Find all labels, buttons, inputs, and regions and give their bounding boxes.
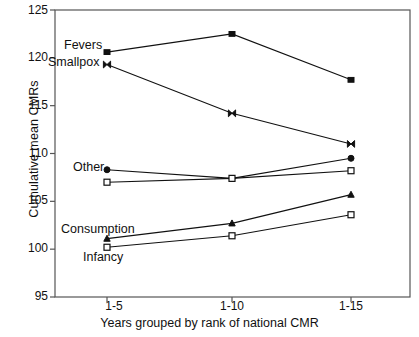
series-label-smallpox: Smallpox xyxy=(48,55,99,69)
y-tick-label-105: 105 xyxy=(18,193,48,207)
line-chart-plot xyxy=(0,0,419,337)
series-other-open xyxy=(104,168,354,185)
y-tick-label-115: 115 xyxy=(18,98,48,112)
series-label-fevers: Fevers xyxy=(64,38,102,52)
series-label-consumption: Consumption xyxy=(61,222,135,236)
y-tick-label-110: 110 xyxy=(18,146,48,160)
x-tick-label-1: 1-10 xyxy=(202,299,262,313)
x-axis-label: Years grouped by rank of national CMR xyxy=(0,316,419,330)
series-fevers xyxy=(104,32,354,83)
y-tick-label-95: 95 xyxy=(18,289,48,303)
series-infancy xyxy=(104,212,354,251)
series-label-other: Other xyxy=(73,160,104,174)
x-tick-label-0: 1-5 xyxy=(84,299,144,313)
series-smallpox xyxy=(103,61,354,147)
y-tick-label-100: 100 xyxy=(18,241,48,255)
y-tick-label-125: 125 xyxy=(18,3,48,17)
chart-figure: Cumulative mean CMRs Years grouped by ra… xyxy=(0,0,419,337)
y-tick-label-120: 120 xyxy=(18,50,48,64)
x-tick-label-2: 1-15 xyxy=(321,299,381,313)
series-label-infancy: Infancy xyxy=(83,250,123,264)
